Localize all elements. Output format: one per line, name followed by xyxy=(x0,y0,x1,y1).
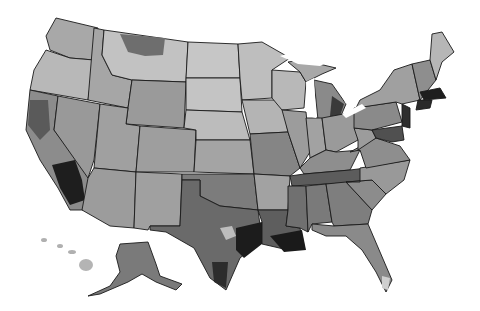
contiguous-us xyxy=(26,18,454,292)
hawaii-inset xyxy=(41,238,93,271)
island-maui xyxy=(68,250,76,254)
island-hawaii xyxy=(79,259,93,271)
state-ohio xyxy=(322,112,358,152)
region-florida-tip-light xyxy=(382,276,390,290)
region-texas-gulf-dark xyxy=(236,222,262,258)
state-connecticut xyxy=(416,100,432,110)
state-new-jersey xyxy=(402,104,410,128)
island-kauai xyxy=(41,238,47,242)
alaska-inset xyxy=(88,242,182,296)
state-new-mexico xyxy=(134,172,182,230)
state-new-york xyxy=(356,64,420,108)
state-colorado xyxy=(136,126,196,172)
state-florida xyxy=(312,224,392,292)
state-mississippi xyxy=(286,186,308,232)
state-south-dakota xyxy=(186,78,242,112)
state-kansas xyxy=(194,140,254,174)
state-north-dakota xyxy=(186,42,240,78)
state-arkansas xyxy=(254,174,290,210)
state-arizona xyxy=(82,168,136,228)
island-oahu xyxy=(57,244,63,248)
state-wyoming xyxy=(126,80,186,128)
us-choropleth-map xyxy=(0,0,480,311)
region-texas-south-dark xyxy=(212,262,228,288)
state-alaska xyxy=(88,242,182,296)
state-maine xyxy=(430,32,454,80)
map-canvas xyxy=(0,0,480,311)
state-wisconsin xyxy=(272,70,306,110)
lake-superior xyxy=(280,50,336,66)
